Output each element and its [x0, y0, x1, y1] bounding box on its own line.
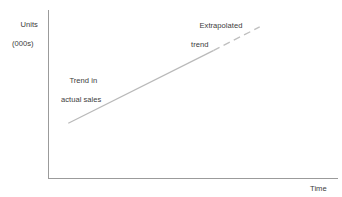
series-label-actual-sales-line2: actual sales: [61, 95, 101, 105]
y-axis-title: Units (000s): [12, 10, 38, 68]
series-label-actual-sales-line1: Trend in: [69, 76, 97, 85]
series-label-extrapolated-trend-line1: Extrapolated: [200, 21, 243, 30]
trend-chart: Units (000s) Trend in actual sales Extra…: [0, 0, 342, 197]
series-label-extrapolated-trend: Extrapolated trend: [191, 11, 242, 69]
x-axis-title: Time: [310, 184, 327, 194]
chart-canvas: [0, 0, 342, 197]
series-label-extrapolated-trend-line2: trend: [191, 40, 242, 50]
series-label-actual-sales: Trend in actual sales: [61, 66, 101, 124]
y-axis-title-line2: (000s): [12, 39, 38, 49]
y-axis-title-line1: Units: [21, 20, 38, 29]
